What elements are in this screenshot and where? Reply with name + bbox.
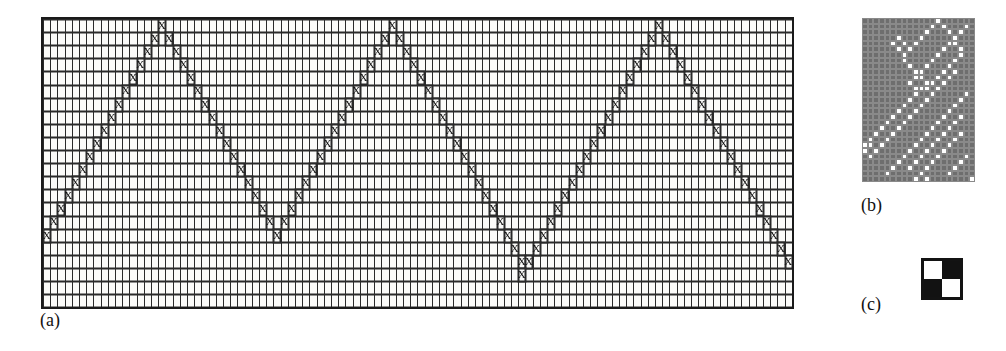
legend-cell-top-right	[942, 261, 960, 279]
legend-cell-bottom-left	[924, 279, 942, 297]
automaton-grid-a-canvas	[43, 19, 792, 307]
automaton-grid-a	[41, 17, 794, 309]
panel-a	[41, 17, 794, 309]
panel-a-caption: (a)	[40, 311, 60, 329]
legend-tile-c	[921, 258, 963, 300]
panel-b-caption: (b)	[861, 196, 882, 214]
panel-b	[862, 18, 975, 182]
automaton-grid-b-canvas	[862, 18, 975, 182]
figure-container: (a) (b) (c)	[0, 0, 1006, 351]
legend-cell-bottom-right	[942, 279, 960, 297]
panel-c-caption: (c)	[861, 295, 881, 313]
legend-cell-top-left	[924, 261, 942, 279]
